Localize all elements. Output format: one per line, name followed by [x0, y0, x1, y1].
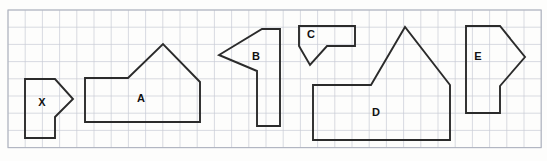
grid-paper-worksheet: XABCDE [0, 0, 547, 161]
figure-e: E [466, 26, 525, 113]
figure-b-outline [219, 29, 280, 126]
figure-x-label: X [38, 96, 46, 108]
figure-b: B [219, 29, 280, 126]
figures-layer: XABCDE [0, 0, 547, 161]
figure-d-outline [313, 27, 450, 140]
figure-c: C [299, 26, 355, 65]
figure-x: X [25, 79, 73, 138]
figure-d: D [313, 27, 450, 140]
figure-a-label: A [137, 92, 145, 104]
figure-a: A [85, 44, 200, 122]
figure-x-outline [25, 79, 73, 138]
figure-a-outline [85, 44, 200, 122]
figure-e-outline [466, 26, 525, 113]
figure-e-label: E [474, 50, 481, 62]
figure-c-label: C [307, 28, 315, 40]
figure-d-label: D [372, 106, 380, 118]
figure-b-label: B [252, 50, 260, 62]
